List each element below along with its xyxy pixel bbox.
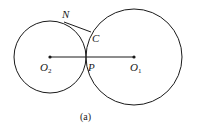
label-o1: O1 bbox=[130, 61, 142, 75]
label-n: N bbox=[61, 8, 70, 20]
tangent-segment-n-c bbox=[64, 22, 91, 32]
center-dot-o2 bbox=[48, 55, 51, 58]
label-p: P bbox=[87, 61, 95, 73]
tangent-circles-diagram: N C P O2 O1 (a) bbox=[0, 0, 197, 131]
figure-caption: (a) bbox=[80, 111, 91, 123]
center-dot-o1 bbox=[132, 55, 135, 58]
label-c: C bbox=[92, 32, 100, 44]
label-o2: O2 bbox=[40, 61, 52, 75]
